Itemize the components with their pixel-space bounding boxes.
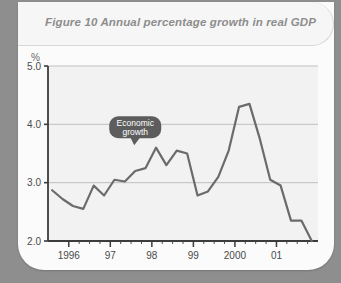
y-axis-tick-label-3: 5.0 [27,61,41,72]
y-axis-tick-label-1: 3.0 [27,177,41,188]
x-axis-tick-label-4: 2000 [224,250,247,261]
figure-root: Figure 10 Annual percentage growth in re… [0,0,341,283]
x-axis-tick-label-1: 97 [105,250,117,261]
line-chart: 2.03.04.05.01996979899200001Economicgrow… [0,0,341,283]
plot-area: 2.03.04.05.01996979899200001Economicgrow… [0,0,341,283]
y-axis-tick-label-0: 2.0 [27,236,41,247]
y-axis-tick-label-2: 4.0 [27,119,41,130]
x-axis-tick-label-3: 99 [188,250,200,261]
plot-background [48,66,318,241]
x-axis-tick-label-5: 01 [271,250,283,261]
x-axis-tick-label-2: 98 [146,250,158,261]
callout-line-2: growth [122,127,148,137]
x-axis-tick-label-0: 1996 [58,250,81,261]
